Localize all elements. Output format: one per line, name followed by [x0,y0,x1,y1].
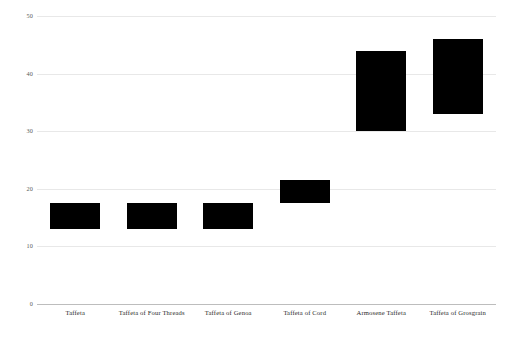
y-tick-label: 40 [3,70,33,76]
chart-container: 01020304050 TaffetaTaffeta of Four Threa… [0,0,513,348]
x-tick-label: Armosene Taffeta [346,308,417,318]
bar [280,180,330,203]
bar [127,203,177,229]
plot-area [37,16,496,304]
bar [433,39,483,114]
x-axis: TaffetaTaffeta of Four ThreadsTaffeta of… [37,308,496,346]
gridline-20 [37,189,496,190]
x-tick-label: Taffeta [40,308,111,318]
gridline-0 [37,304,496,305]
x-tick-label: Taffeta of Four Threads [117,308,188,318]
gridline-50 [37,16,496,17]
y-tick-label: 30 [3,128,33,134]
bar [203,203,253,229]
bar [356,51,406,132]
y-tick-label: 20 [3,186,33,192]
x-tick-label: Taffeta of Grosgrain [423,308,494,318]
gridline-40 [37,74,496,75]
gridline-10 [37,246,496,247]
y-tick-label: 0 [3,301,33,307]
x-tick-label: Taffeta of Cord [270,308,341,318]
bar [50,203,100,229]
y-tick-label: 10 [3,243,33,249]
y-tick-label: 50 [3,13,33,19]
x-tick-label: Taffeta of Genoa [193,308,264,318]
gridline-30 [37,131,496,132]
y-axis: 01020304050 [0,16,33,304]
